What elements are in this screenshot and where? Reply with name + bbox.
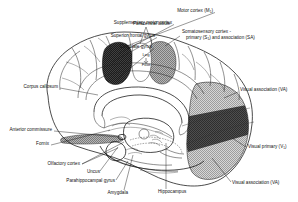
label-parahippocampal-gyrus: Parahippocampal gyrus: [66, 178, 115, 183]
label-motor-cortex: Motor cortex (M1): [177, 8, 213, 14]
leader-amygdala: [124, 155, 133, 190]
label-olfactory-cortex: Olfactory cortex: [48, 161, 81, 166]
medial-brain-diagram: Motor cortex (M1) Supplementary motor co…: [0, 0, 298, 202]
label-superior-frontal-gyrus: Superior frontal gyrus: [111, 33, 156, 38]
label-somatosensory-cortex-line2: primary (S1) and association (SA): [186, 35, 255, 41]
label-cingulate-gyrus: Cingulate gyrus: [120, 44, 153, 49]
label-visual-association-bottom: Visual association (VA): [232, 180, 280, 185]
shaded-regions: [61, 42, 258, 180]
label-texts: Motor cortex (M1) Supplementary motor co…: [10, 8, 288, 195]
label-paracentral-lobule: Paracentral lobule: [133, 21, 171, 26]
corpus-callosum-group: [94, 87, 189, 158]
leader-corpus-callosum: [60, 88, 98, 95]
label-visual-primary: Visual primary (V1): [248, 144, 287, 150]
label-hippocampus: Hippocampus: [158, 189, 187, 194]
label-leg: Leg: [143, 52, 151, 57]
label-amygdala: Amygdala: [107, 190, 128, 195]
brain-anatomy-figure: Motor cortex (M1) Supplementary motor co…: [0, 0, 298, 202]
leader-olfactory-cortex-2: [82, 148, 118, 164]
label-somatosensory-cortex: Somatosensory cortex -: [182, 29, 231, 34]
label-corpus-callosum: Corpus callosum: [23, 84, 58, 89]
leader-parahippocampal-gyrus: [116, 161, 128, 180]
label-uncus: Uncus: [87, 169, 101, 174]
label-visual-association-top: Visual association (VA): [240, 87, 288, 92]
label-fornix: Fornix: [36, 141, 50, 146]
label-anterior-commissure: Anterior commissure: [10, 127, 53, 132]
